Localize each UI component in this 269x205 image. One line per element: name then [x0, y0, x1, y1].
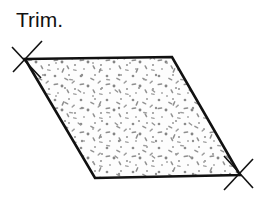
figure-canvas: Trim.	[0, 0, 269, 205]
trim-label: Trim.	[16, 8, 63, 32]
